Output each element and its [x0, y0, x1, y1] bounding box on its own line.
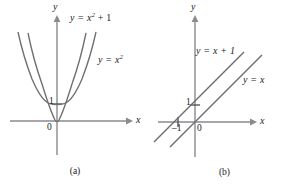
- figure-page: y x 0 1 y = x2 + 1 y = x2 (a): [0, 0, 299, 191]
- x-axis-arrow-icon: [250, 119, 257, 126]
- equation-text-b1: y = x + 1: [196, 45, 235, 56]
- line-y-equals-x: [170, 55, 262, 147]
- x-axis-label-a: x: [136, 114, 140, 125]
- y-axis-arrow-icon: [54, 15, 61, 22]
- equation-label-line-shifted: y = x + 1: [196, 45, 235, 56]
- panel-a: y x 0 1 y = x2 + 1 y = x2 (a): [0, 0, 150, 191]
- equation-tail-a1: + 1: [95, 12, 111, 23]
- panel-a-plot: [0, 0, 150, 191]
- equation-label-parabola-shifted: y = x2 + 1: [70, 12, 112, 23]
- y-axis-b: [192, 15, 199, 157]
- equation-lead-a1: y = x: [70, 12, 92, 23]
- x-axis-arrow-icon: [126, 118, 133, 125]
- y-tick-label-one-a: 1: [49, 96, 54, 106]
- y-axis-label-a: y: [53, 1, 57, 12]
- equation-exp-a2: 2: [120, 53, 123, 60]
- equation-lead-a2: y = x: [98, 54, 120, 65]
- x-tick-label-neg-one-b: –1: [172, 123, 182, 133]
- y-axis-label-b: y: [191, 1, 195, 12]
- panel-b-plot: [150, 0, 299, 191]
- y-axis-arrow-icon: [192, 15, 199, 22]
- origin-label-a: 0: [47, 122, 52, 132]
- caption-b: (b): [150, 167, 299, 177]
- origin-label-b: 0: [197, 123, 202, 133]
- x-axis-label-b: x: [260, 115, 264, 126]
- panel-b: y x 0 1 –1 y = x + 1 y = x (b): [150, 0, 299, 191]
- y-axis-a: [54, 15, 61, 155]
- equation-label-line-base: y = x: [243, 74, 265, 85]
- caption-a: (a): [0, 166, 150, 176]
- equation-label-parabola-base: y = x2: [98, 54, 123, 65]
- x-axis-a: [10, 118, 133, 125]
- equation-text-b2: y = x: [243, 74, 265, 85]
- y-tick-label-one-b: 1: [186, 97, 191, 107]
